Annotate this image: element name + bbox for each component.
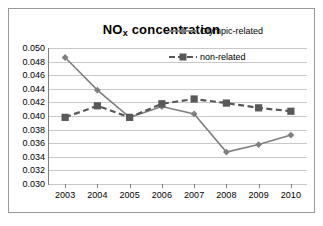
data-point-square-marker [94,102,101,109]
y-axis-tick-label: 0.040 [22,111,45,121]
data-point-square-marker [287,108,294,115]
x-axis-tick-label: 2006 [152,190,172,200]
x-axis-tick-label: 2005 [120,190,140,200]
y-axis-tick-label: 0.032 [22,165,45,175]
legend-marker-square-icon [169,51,197,63]
x-axis-tick-label: 2008 [216,190,236,200]
y-axis-tick-label: 0.036 [22,138,45,148]
y-axis-tick-label: 0.044 [22,84,45,94]
data-point-square-marker [62,114,69,121]
data-point-square-marker [223,99,230,106]
legend-marker-diamond-icon [169,25,197,37]
series-non-related [62,95,295,121]
data-point-square-marker [158,100,165,107]
x-axis-tick-mark [291,184,292,188]
x-axis-tick-label: 2003 [55,190,75,200]
y-axis-tick-label: 0.050 [22,43,45,53]
x-axis-tick-mark [162,184,163,188]
x-axis-tick-label: 2009 [249,190,269,200]
data-point-square-marker [191,95,198,102]
y-axis-tick-label: 0.038 [22,125,45,135]
x-axis-tick-mark [130,184,131,188]
x-axis-tick-label: 2007 [184,190,204,200]
y-axis-tick-label: 0.030 [22,179,45,189]
data-point-square-marker [126,114,133,121]
legend-item-olympic-related: Olympic-related [169,18,273,44]
data-point-diamond-marker [287,132,294,139]
data-point-diamond-marker [255,141,262,148]
x-axis-tick-mark [194,184,195,188]
data-point-square-marker [255,104,262,111]
legend-item-non-related: non-related [169,44,273,70]
chart-legend: Olympic-related non-related [169,18,273,70]
x-axis-tick-mark [226,184,227,188]
chart-title-base: NO [103,22,123,37]
x-axis-tick-mark [97,184,98,188]
x-axis-tick-label: 2010 [281,190,301,200]
y-axis-tick-label: 0.048 [22,57,45,67]
x-axis-tick-label: 2004 [87,190,107,200]
x-axis-tick-mark [65,184,66,188]
gridline [49,184,307,185]
x-axis-tick-mark [259,184,260,188]
chart-frame: NOx concentration 0.0300.0320.0340.0360.… [8,8,315,213]
y-axis-tick-label: 0.042 [22,97,45,107]
y-axis-tick-label: 0.034 [22,152,45,162]
legend-label-olympic-related: Olympic-related [200,26,263,36]
legend-label-non-related: non-related [200,52,246,62]
y-axis-tick-label: 0.046 [22,70,45,80]
chart-title-subscript: x [123,28,128,38]
